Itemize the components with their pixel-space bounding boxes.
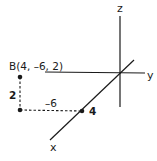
y-axis [45, 72, 145, 73]
x-value-label: 4 [89, 105, 96, 117]
point-b-dot [18, 75, 23, 80]
point-b-label: B(4, –6, 2) [9, 60, 63, 72]
y-guide-dashed-line [20, 110, 82, 111]
x-axis-label: x [50, 141, 57, 154]
y-axis-label: y [147, 69, 154, 82]
x-intercept-dot [80, 109, 85, 114]
z-value-label: 2 [9, 89, 16, 101]
coordinate-diagram: z y x B(4, –6, 2) 2 –6 4 [0, 0, 157, 161]
y-value-label: –6 [45, 97, 57, 109]
z-axis-label: z [117, 2, 123, 15]
projection-corner-dot [18, 108, 23, 113]
